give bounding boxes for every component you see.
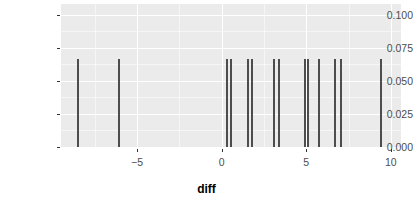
x-tick-label: 0 bbox=[219, 157, 225, 168]
x-axis-title: diff bbox=[0, 183, 413, 195]
bar bbox=[251, 59, 253, 147]
y-tick-mark bbox=[57, 48, 60, 49]
bar bbox=[118, 59, 120, 147]
bar bbox=[77, 59, 79, 147]
bar bbox=[340, 59, 342, 147]
gridline-minor-x bbox=[95, 4, 96, 147]
x-tick-mark bbox=[306, 149, 307, 152]
y-tick-mark bbox=[57, 114, 60, 115]
x-tick-label: 10 bbox=[385, 157, 397, 168]
x-tick-mark bbox=[222, 149, 223, 152]
gridline-major-y bbox=[61, 48, 401, 49]
bar bbox=[318, 59, 320, 147]
x-tick-mark bbox=[137, 149, 138, 152]
plot-panel bbox=[61, 4, 401, 147]
x-tick-mark bbox=[391, 149, 392, 152]
gridline-major-y bbox=[61, 15, 401, 16]
gridline-minor-x bbox=[179, 4, 180, 147]
gridline-minor-x bbox=[349, 4, 350, 147]
bar bbox=[380, 59, 382, 147]
x-tick-label: 5 bbox=[303, 157, 309, 168]
gridline-major-x bbox=[391, 4, 392, 147]
bar bbox=[273, 59, 275, 147]
gridline-major-x bbox=[222, 4, 223, 147]
gridline-major-x bbox=[137, 4, 138, 147]
bar bbox=[334, 59, 336, 147]
y-tick-mark bbox=[57, 15, 60, 16]
y-tick-mark bbox=[57, 81, 60, 82]
bar bbox=[226, 59, 228, 147]
gridline-minor-x bbox=[264, 4, 265, 147]
bar bbox=[304, 59, 306, 147]
x-tick-label: −5 bbox=[131, 157, 143, 168]
bar bbox=[247, 59, 249, 147]
gridline-minor-y bbox=[61, 31, 401, 32]
bar bbox=[230, 59, 232, 147]
bar bbox=[278, 59, 280, 147]
bar bbox=[307, 59, 309, 147]
y-tick-mark bbox=[57, 147, 60, 148]
histogram-chart: 0.0000.0250.0500.0750.100 −50510 diff bbox=[0, 0, 413, 211]
